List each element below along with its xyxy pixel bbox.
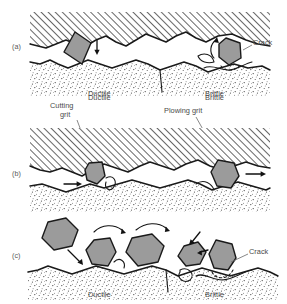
panel-b-ductile-label: Ductile [88, 93, 111, 102]
panel-c-ductile-label: Ductile [88, 290, 111, 299]
figure-canvas: Crack (a) Ductile Brittle Cutting grit P… [0, 0, 287, 304]
panel-b-cutting-grit-label-line1: Cutting [50, 101, 73, 110]
panel-c-brittle-label: Brittle [205, 290, 224, 299]
grinding-mechanism-figure: Crack (a) Ductile Brittle Cutting grit P… [0, 0, 287, 304]
panel-b-id: (b) [12, 169, 21, 178]
panel-a-id: (a) [12, 42, 21, 51]
panel-a-crack-label: Crack [253, 38, 273, 47]
panel-b-cutting-grit-label-line2: grit [60, 110, 70, 119]
panel-c-id: (c) [12, 251, 20, 260]
panel-c-crack-label: Crack [249, 247, 269, 256]
panel-b-brittle-label: Brittle [205, 93, 224, 102]
panel-b-plowing-grit-label: Plowing grit [164, 106, 202, 115]
